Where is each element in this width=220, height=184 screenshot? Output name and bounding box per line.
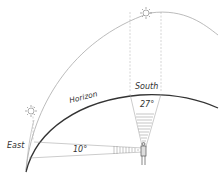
sun-icon-south	[140, 7, 152, 19]
label-angle-south: 27°	[140, 100, 154, 109]
sky-arc	[26, 12, 218, 170]
observer-figure	[141, 143, 146, 166]
label-east: East	[7, 141, 25, 150]
horizon-line	[26, 95, 218, 172]
sun-path-diagram: South 27° East 10° Horizon	[0, 0, 220, 184]
sun-icon-east	[25, 105, 37, 117]
label-south: South	[135, 82, 158, 91]
east-cone-hatching	[114, 146, 138, 154]
cone-edge	[34, 142, 143, 148]
label-angle-east: 10°	[73, 145, 87, 154]
label-horizon: Horizon	[68, 89, 98, 105]
